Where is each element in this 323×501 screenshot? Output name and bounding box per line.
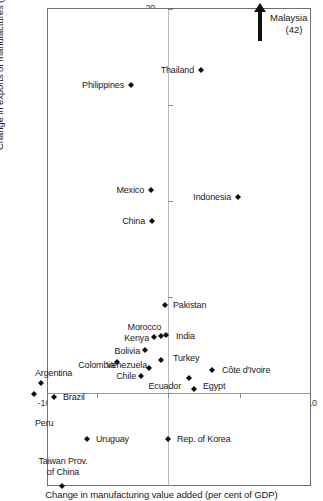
x-tick-0 <box>168 393 169 398</box>
x-axis-title: Change in manufacturing value added (per… <box>0 489 323 500</box>
plot-area: Malaysia (42) Thailand Philippines Mexic… <box>47 8 311 486</box>
data-label-bolivia: Bolivia <box>78 346 140 356</box>
data-label-argentina: Argentina <box>35 368 72 378</box>
data-label-turkey: Turkey <box>173 353 199 363</box>
data-label-kenya: Kenya <box>90 333 149 343</box>
y-zero-reference-line <box>48 393 310 394</box>
y-tick-5 <box>168 297 173 298</box>
scatter-chart-figure: Change in exports of manufactures (per c… <box>0 0 323 501</box>
malaysia-label: Malaysia <box>270 12 318 24</box>
data-label-uruguay: Uruguay <box>96 434 129 444</box>
y-tick-15 <box>168 105 173 106</box>
y-axis-title: Change in exports of manufactures (per c… <box>0 0 5 150</box>
data-label-peru: Peru <box>35 418 53 428</box>
data-label-philippines: Philippines <box>54 80 124 90</box>
x-tick-minus5 <box>97 393 98 398</box>
data-label-ecuador: Ecuador <box>126 381 181 391</box>
data-label-egypt: Egypt <box>203 381 225 391</box>
data-label-india: India <box>176 331 195 341</box>
x-zero-reference-line <box>168 9 169 485</box>
x-tick-5 <box>240 393 241 398</box>
malaysia-annotation: Malaysia (42) <box>270 12 318 36</box>
data-label-brazil: Brazil <box>63 392 85 402</box>
data-label-cote-divoire: Côte d'Ivoire <box>222 365 270 375</box>
data-label-thailand: Thailand <box>126 65 194 75</box>
data-label-taiwan-line1: Taiwan Prov. <box>32 456 94 466</box>
data-label-morocco: Morocco <box>93 322 161 332</box>
data-label-mexico: Mexico <box>78 185 144 195</box>
data-label-pakistan: Pakistan <box>173 300 206 310</box>
y-tick-20 <box>168 9 173 10</box>
data-label-china: China <box>90 216 145 226</box>
malaysia-up-arrow-icon <box>258 11 262 41</box>
data-label-rep-of-korea: Rep. of Korea <box>177 434 231 444</box>
y-tick-minus5 <box>168 485 173 486</box>
malaysia-value: (42) <box>270 24 318 36</box>
data-label-chile: Chile <box>83 371 136 381</box>
data-label-indonesia: Indonesia <box>159 192 231 202</box>
data-label-taiwan-line2: of China <box>32 467 94 477</box>
